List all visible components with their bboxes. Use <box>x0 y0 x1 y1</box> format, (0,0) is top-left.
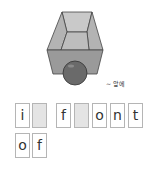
box-with-ball-icon <box>0 0 153 100</box>
letter-tile: n <box>110 103 125 128</box>
letter-tile: o <box>92 103 107 128</box>
letter-tile: t <box>128 103 143 128</box>
letter-tile: i <box>15 103 30 128</box>
caption-label: ~ 앞에 <box>106 79 125 88</box>
blank-tile[interactable] <box>32 103 47 128</box>
letter-tile: f <box>32 133 47 158</box>
letter-tile: f <box>56 103 71 128</box>
letter-tile: o <box>15 133 30 158</box>
blank-tile[interactable] <box>74 103 89 128</box>
